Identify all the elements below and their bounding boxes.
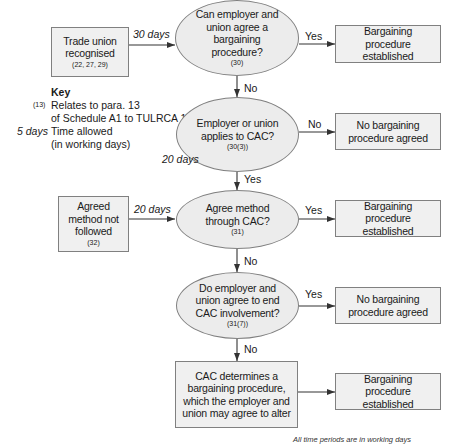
edge-label-no: No (244, 255, 257, 267)
node-text: Agree method through CAC? (203, 202, 273, 227)
key-ref-sample: (13) (33, 101, 45, 108)
edge-label-20-days: 20 days (134, 203, 171, 215)
edge-label-30-days: 30 days (133, 28, 170, 40)
node-ref: (30) (231, 58, 243, 68)
decision-agree-bargaining-procedure: Can employer and union agree a bargainin… (175, 0, 299, 76)
decision-end-cac-involvement: Do employer and union agree to end CAC i… (176, 272, 299, 339)
node-text: Bargaining procedure established (340, 200, 436, 238)
node-cac-determines-procedure: CAC determines a bargaining procedure, w… (175, 361, 298, 428)
edge-label-no: No (244, 82, 257, 94)
edge-label-no: No (244, 343, 257, 355)
result-bargaining-established-2: Bargaining procedure established (335, 200, 441, 237)
node-ref: (32) (87, 238, 99, 248)
node-text: No bargaining procedure agreed (340, 119, 436, 144)
edge-label-20-days: 20 days (162, 153, 199, 165)
key-days-sample: 5 days (17, 125, 48, 138)
edge-label-no: No (308, 118, 321, 130)
node-text: CAC determines a bargaining procedure, w… (181, 370, 293, 420)
node-text: Can employer and union agree a bargainin… (187, 8, 287, 58)
key-title: Key (51, 86, 70, 99)
decision-agree-method-through-cac: Agree method through CAC? (31) (176, 190, 299, 249)
node-ref: (30(3)) (227, 142, 248, 152)
node-text: Bargaining procedure established (340, 25, 436, 63)
key-ref-description-1: Relates to para. 13 (51, 99, 140, 112)
node-ref: (31) (231, 227, 243, 237)
node-ref: (31(7)) (227, 319, 248, 329)
key-days-description-1: Time allowed (51, 125, 112, 138)
key-days-description-2: (in working days) (51, 138, 130, 151)
node-text: Employer or union applies to CAC? (193, 117, 283, 142)
edge-label-yes: Yes (305, 30, 322, 42)
footer-note: All time periods are in working days (293, 435, 411, 444)
node-agreed-method-not-followed: Agreed method not followed (32) (58, 196, 129, 252)
result-no-bargaining-2: No bargaining procedure agreed (335, 287, 441, 324)
node-text: Agreed method not followed (67, 200, 121, 238)
result-bargaining-established-1: Bargaining procedure established (335, 25, 441, 63)
edge-label-yes: Yes (305, 288, 322, 300)
node-text: Do employer and union agree to end CAC i… (190, 282, 286, 320)
node-text: Trade union recognised (60, 35, 120, 60)
result-bargaining-established-3: Bargaining procedure established (335, 373, 441, 410)
node-text: No bargaining procedure agreed (340, 293, 436, 318)
node-ref: (22, 27, 29) (72, 60, 108, 70)
edge-label-yes: Yes (244, 173, 261, 185)
edge-label-yes: Yes (305, 204, 322, 216)
node-trade-union-recognised: Trade union recognised (22, 27, 29) (51, 27, 129, 77)
node-text: Bargaining procedure established (340, 373, 436, 411)
result-no-bargaining-1: No bargaining procedure agreed (335, 113, 441, 150)
